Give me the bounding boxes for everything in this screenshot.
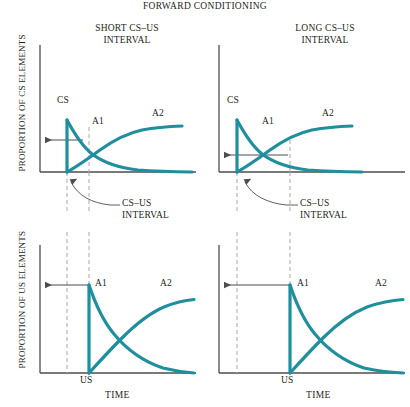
panel-long-us (219, 232, 405, 373)
cs-us-interval-leader (71, 182, 110, 205)
a1-decay-curve (89, 285, 194, 373)
a1-decay-curve (290, 285, 403, 373)
a2-label-short-us: A2 (160, 278, 172, 288)
cs-onset-label-long: CS (227, 95, 239, 105)
panel-long-cs (219, 45, 405, 213)
panel-short-cs (40, 45, 196, 213)
cs-us-interval-annotation-short-line2: INTERVAL (122, 210, 169, 222)
a2-label-short-cs: A2 (152, 108, 164, 118)
forward-conditioning-figure: FORWARD CONDITIONING SHORT CS–US INTERVA… (0, 0, 410, 407)
a1-label-short-us: A1 (95, 278, 107, 288)
cs-us-interval-annotation-long: CS–US INTERVAL (300, 198, 347, 221)
a2-label-long-us: A2 (375, 278, 387, 288)
a2-label-long-cs: A2 (322, 108, 334, 118)
x-axis-title-right: TIME (306, 390, 331, 400)
a1-label-long-cs: A1 (262, 116, 274, 126)
us-onset-label-short: US (80, 375, 93, 385)
cs-us-interval-annotation-short: CS–US INTERVAL (122, 198, 169, 221)
a2-growth-curve (89, 300, 194, 374)
a1-label-short-cs: A1 (92, 116, 104, 126)
a2-growth-curve (67, 126, 182, 172)
plot-canvas (0, 0, 410, 407)
us-onset-label-long: US (281, 375, 294, 385)
cs-us-interval-annotation-long-line2: INTERVAL (300, 210, 347, 222)
a2-growth-curve (237, 126, 352, 172)
cs-us-interval-annotation-long-line1: CS–US (300, 198, 347, 210)
cs-us-interval-annotation-short-line1: CS–US (122, 198, 169, 210)
a1-label-long-us: A1 (297, 278, 309, 288)
panel-short-us (40, 232, 196, 373)
cs-onset-label-short: CS (57, 95, 69, 105)
x-axis-title-left: TIME (105, 390, 130, 400)
cs-us-interval-leader (245, 182, 286, 205)
